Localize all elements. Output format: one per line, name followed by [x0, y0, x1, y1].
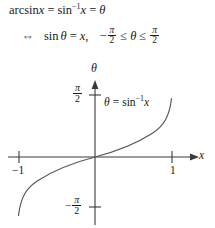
x-tick-label-negative-one: −1: [12, 164, 24, 176]
fraction-numerator: π: [73, 83, 82, 94]
equals-sign-1: =: [47, 3, 54, 17]
fraction-pi-over-two-neg: π2: [108, 26, 117, 47]
fraction-denominator: 2: [108, 36, 117, 46]
fraction-numerator: π: [108, 26, 117, 36]
inverse-exponent-1: −1: [72, 2, 81, 11]
y-tick-label-pi-over-two: π2: [72, 83, 83, 105]
x-tick-label-positive-one: 1: [170, 164, 176, 176]
figure-root: arcsinx=sin−1x=θ ⇔sinθ=x,−π2≤θ≤π2: [0, 0, 215, 228]
theta-symbol-2: θ: [61, 29, 67, 44]
theta-symbol-3: θ: [130, 29, 136, 44]
fraction-denominator: 2: [150, 36, 159, 46]
sin-operator: sin: [122, 96, 135, 108]
y-tick-label-negative-pi-over-two: −π2: [65, 195, 82, 217]
graph-area: θ x π2 −π2 −1 1 θ=sin−1x: [0, 58, 215, 228]
arcsin-operator: arcsin: [9, 3, 39, 17]
arcsin-plot-svg: [0, 58, 215, 228]
equation-line-2: ⇔sinθ=x,−π2≤θ≤π2: [22, 26, 160, 47]
fraction-denominator: 2: [72, 206, 81, 217]
fraction-pi-over-two: π2: [73, 83, 82, 105]
variable-x: x: [144, 96, 149, 108]
minus-sign: −: [65, 199, 71, 211]
less-equal-sign-2: ≤: [139, 29, 146, 44]
y-axis: [92, 80, 99, 225]
curve-label: θ=sin−1x: [104, 96, 149, 108]
fraction-pi-over-two: π2: [72, 195, 81, 217]
theta-symbol: θ: [104, 96, 110, 108]
equation-line-1: arcsinx=sin−1x=θ: [9, 3, 105, 18]
iff-symbol: ⇔: [22, 29, 34, 44]
equals-sign: =: [113, 96, 120, 108]
y-axis-label: θ: [91, 61, 97, 76]
x-axis-label: x: [199, 149, 204, 161]
equals-sign-3: =: [70, 29, 77, 44]
minus-sign: −: [99, 29, 106, 44]
less-equal-sign-1: ≤: [120, 29, 127, 44]
formula-block: arcsinx=sin−1x=θ ⇔sinθ=x,−π2≤θ≤π2: [0, 0, 215, 58]
fraction-denominator: 2: [73, 94, 82, 105]
equals-sign-2: =: [89, 3, 96, 17]
sin-operator-1: sin: [57, 3, 72, 17]
variable-x-1: x: [39, 3, 45, 17]
sin-operator-2: sin: [44, 29, 59, 44]
variable-x-2: x: [81, 3, 87, 17]
fraction-numerator: π: [150, 26, 159, 36]
fraction-pi-over-two-pos: π2: [150, 26, 159, 47]
comma-separator: ,: [85, 29, 88, 44]
fraction-numerator: π: [72, 195, 81, 206]
theta-symbol-1: θ: [99, 3, 105, 17]
inverse-exponent: −1: [136, 94, 145, 103]
